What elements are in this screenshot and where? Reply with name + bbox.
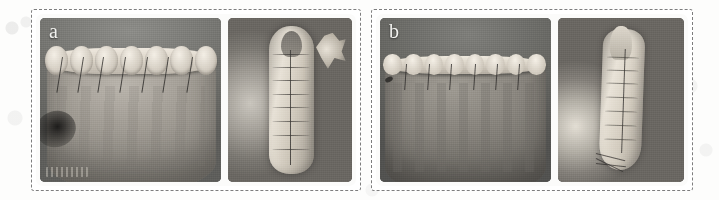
- suture-rings: [599, 49, 644, 158]
- panel-b-photo-frontal-view: b: [380, 18, 551, 182]
- panel-b-photo-side-view: [558, 18, 684, 182]
- suture-lines: [387, 64, 544, 90]
- panel-a-photo-top-view: [228, 18, 352, 182]
- suture-rings: [269, 50, 314, 165]
- figure-panel-a: a: [31, 9, 361, 191]
- suture-threads: [596, 153, 656, 179]
- suture-lines: [47, 57, 215, 93]
- photo-corner-marking: [46, 167, 88, 177]
- panel-a-photo-frontal-view: a: [40, 18, 221, 182]
- panel-a-photo-mount: a: [36, 14, 356, 186]
- panel-b-photo-mount: b: [376, 14, 688, 186]
- figure-panel-b: b: [371, 9, 693, 191]
- figure-container: a: [0, 0, 719, 200]
- specimen-body: [269, 26, 314, 174]
- panel-label-b: b: [389, 21, 399, 41]
- specimen-body: [598, 29, 644, 171]
- panel-label-a: a: [49, 21, 58, 41]
